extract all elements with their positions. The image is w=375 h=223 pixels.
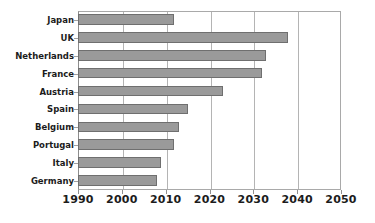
bar[interactable] [78, 50, 266, 61]
x-axis-tick [78, 190, 79, 194]
y-axis-tick-label: UK [0, 33, 74, 43]
x-axis-tick-label: 2030 [238, 193, 269, 206]
bar[interactable] [78, 157, 161, 168]
x-axis-tick [166, 190, 167, 194]
x-axis-tick-label: 2040 [281, 193, 312, 206]
x-axis-tick-label: 2020 [194, 193, 225, 206]
x-axis-tick [122, 190, 123, 194]
bar[interactable] [78, 32, 288, 43]
y-axis-tick-label: Portugal [0, 140, 74, 150]
bar-row [78, 136, 341, 154]
y-axis-tick [74, 163, 78, 164]
y-axis-tick [74, 38, 78, 39]
x-axis-labels: 1990200020102020203020402050 [0, 193, 375, 215]
x-axis-tick [297, 190, 298, 194]
y-axis-tick [74, 20, 78, 21]
bar-row [78, 83, 341, 101]
bar[interactable] [78, 139, 174, 150]
y-axis-tick [74, 74, 78, 75]
bar[interactable] [78, 104, 188, 115]
x-axis-tick [341, 190, 342, 194]
y-axis-tick-label: Germany [0, 176, 74, 186]
bar[interactable] [78, 68, 262, 79]
y-axis-tick [74, 181, 78, 182]
bar-row [78, 47, 341, 65]
y-axis-tick-label: Belgium [0, 122, 74, 132]
x-axis-tick [210, 190, 211, 194]
y-axis-labels: JapanUKNetherlandsFranceAustriaSpainBelg… [0, 11, 74, 190]
y-axis-tick [74, 145, 78, 146]
x-axis-tick-label: 2050 [325, 193, 356, 206]
bar-row [78, 11, 341, 29]
bars-layer [78, 11, 341, 190]
x-axis-tick-label: 1990 [62, 193, 93, 206]
bar-row [78, 65, 341, 83]
bar-row [78, 101, 341, 119]
y-axis-tick [74, 56, 78, 57]
y-axis-tick-label: Spain [0, 104, 74, 114]
y-axis-tick-label: France [0, 69, 74, 79]
bar-row [78, 118, 341, 136]
bar-chart: JapanUKNetherlandsFranceAustriaSpainBelg… [0, 0, 375, 223]
x-axis-tick [253, 190, 254, 194]
y-axis-tick-label: Italy [0, 158, 74, 168]
y-axis-tick-label: Austria [0, 87, 74, 97]
y-axis-tick [74, 92, 78, 93]
bar[interactable] [78, 122, 179, 133]
bar[interactable] [78, 86, 223, 97]
x-axis-tick-label: 2000 [106, 193, 137, 206]
y-axis-tick [74, 127, 78, 128]
x-axis-tick-label: 2010 [150, 193, 181, 206]
y-axis-tick-label: Japan [0, 15, 74, 25]
bar[interactable] [78, 14, 174, 25]
bar-row [78, 29, 341, 47]
bar[interactable] [78, 175, 157, 186]
bar-row [78, 172, 341, 190]
y-axis-tick [74, 109, 78, 110]
y-axis-tick-label: Netherlands [0, 51, 74, 61]
bar-row [78, 154, 341, 172]
